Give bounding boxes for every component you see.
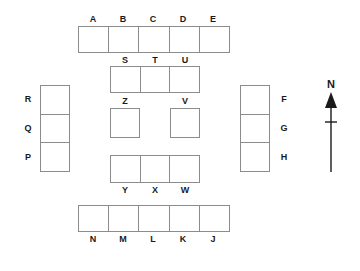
cell-a[interactable] xyxy=(79,27,108,52)
cell-label-r: R xyxy=(20,94,36,104)
cell-label-u: U xyxy=(170,55,200,65)
cell-label-m: M xyxy=(108,234,138,244)
cell-h[interactable] xyxy=(241,142,269,171)
block-layout-diagram: A B C D E S T U Z V Y X W N M L K J xyxy=(0,0,360,271)
cell-x[interactable] xyxy=(140,156,170,182)
cell-label-b: B xyxy=(108,14,138,24)
cell-e[interactable] xyxy=(199,27,229,52)
cell-label-e: E xyxy=(198,14,228,24)
cell-c[interactable] xyxy=(138,27,168,52)
cell-b[interactable] xyxy=(108,27,138,52)
cell-label-h: H xyxy=(276,152,292,162)
cell-label-z: Z xyxy=(110,96,140,106)
cell-r[interactable] xyxy=(41,86,69,114)
cell-j[interactable] xyxy=(199,206,229,231)
cell-u[interactable] xyxy=(169,67,199,92)
cell-p[interactable] xyxy=(41,142,69,171)
group-left-column xyxy=(40,85,70,172)
cell-label-v: V xyxy=(170,96,200,106)
north-arrow: N xyxy=(316,78,346,174)
cell-k[interactable] xyxy=(169,206,199,231)
cell-label-t: T xyxy=(140,55,170,65)
cell-label-p: P xyxy=(20,152,36,162)
cell-label-f: F xyxy=(276,94,292,104)
cell-y[interactable] xyxy=(111,156,140,182)
cell-label-l: L xyxy=(138,234,168,244)
cell-label-j: J xyxy=(198,234,228,244)
cell-label-s: S xyxy=(110,55,140,65)
cell-g[interactable] xyxy=(241,114,269,143)
cell-label-w: W xyxy=(170,185,200,195)
cell-d[interactable] xyxy=(169,27,199,52)
cell-label-n: N xyxy=(78,234,108,244)
cell-t[interactable] xyxy=(140,67,170,92)
group-bottom-row xyxy=(78,205,230,232)
cell-n[interactable] xyxy=(79,206,108,231)
cell-m[interactable] xyxy=(108,206,138,231)
cell-label-g: G xyxy=(276,123,292,133)
cell-label-d: D xyxy=(168,14,198,24)
cell-w[interactable] xyxy=(169,156,199,182)
cell-label-x: X xyxy=(140,185,170,195)
cell-label-k: K xyxy=(168,234,198,244)
cell-s[interactable] xyxy=(111,67,140,92)
cell-label-c: C xyxy=(138,14,168,24)
cell-label-y: Y xyxy=(110,185,140,195)
group-top-row xyxy=(78,26,230,53)
cell-q[interactable] xyxy=(41,114,69,143)
cell-f[interactable] xyxy=(241,86,269,114)
group-right-column xyxy=(240,85,270,172)
cell-label-q: Q xyxy=(20,123,36,133)
north-arrow-icon xyxy=(316,92,346,174)
cell-l[interactable] xyxy=(138,206,168,231)
cell-z[interactable] xyxy=(110,108,140,138)
group-upper-middle-row xyxy=(110,66,200,93)
group-lower-middle-row xyxy=(110,155,200,183)
north-label: N xyxy=(316,78,346,90)
cell-v[interactable] xyxy=(170,108,200,138)
cell-label-a: A xyxy=(78,14,108,24)
